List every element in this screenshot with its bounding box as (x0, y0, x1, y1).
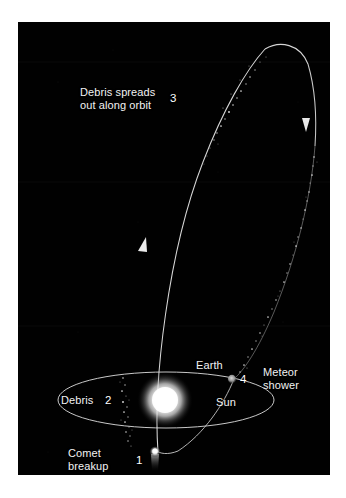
label-comet-breakup: Cometbreakup (68, 447, 108, 472)
label-meteor-shower: Meteorshower (263, 366, 299, 391)
label-debris-spreads-line1: Debris spreads (80, 86, 155, 98)
label-comet-line1: Comet (68, 447, 101, 459)
step-number-2: 2 (105, 394, 111, 406)
label-debris-spreads: Debris spreadsout along orbit (80, 86, 155, 111)
label-meteor-line2: shower (263, 379, 299, 391)
label-debris-spreads-line2: out along orbit (80, 99, 151, 111)
step-number-1: 1 (136, 454, 142, 466)
comet-nucleus-core (152, 448, 157, 453)
label-sun: Sun (216, 396, 236, 409)
sun-core (152, 387, 178, 413)
label-comet-line2: breakup (68, 460, 108, 472)
label-debris: Debris (61, 394, 93, 407)
label-meteor-line1: Meteor (263, 366, 298, 378)
step-number-3: 3 (170, 92, 176, 104)
orbit-diagram-svg (18, 22, 330, 475)
figure-page: Debris spreadsout along orbit 3 Earth 4 … (0, 0, 346, 498)
label-earth: Earth (196, 359, 223, 372)
astronomy-diagram-panel: Debris spreadsout along orbit 3 Earth 4 … (18, 22, 330, 475)
earth-body (228, 375, 236, 383)
step-number-4: 4 (240, 373, 246, 385)
